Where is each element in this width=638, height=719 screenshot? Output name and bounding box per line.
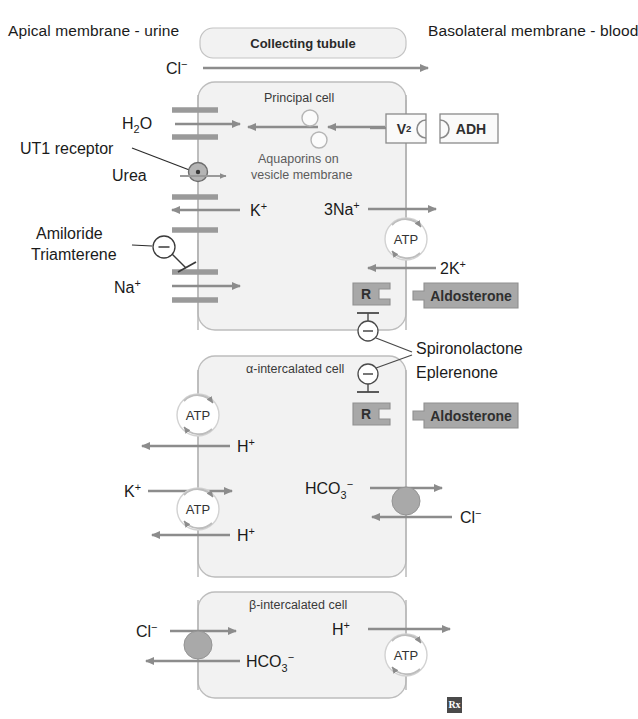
cl-alpha-label: Cl− <box>460 507 481 527</box>
hco3-alpha-label: HCO3− <box>305 478 353 501</box>
alpha-intercalated-cell-box <box>198 356 406 577</box>
amiloride-label: Amiloride <box>36 225 103 243</box>
principal-cell-label: Principal cell <box>264 91 334 105</box>
hco3-cl-exchanger-alpha <box>392 487 420 515</box>
apical-membrane-header: Apical membrane - urine <box>8 22 179 40</box>
basolateral-membrane-header: Basolateral membrane - blood <box>428 22 638 40</box>
na-apical-principal-label: Na+ <box>114 277 141 297</box>
ut1-receptor-label: UT1 receptor <box>20 140 113 158</box>
collecting-tubule-label: Collecting tubule <box>200 28 406 58</box>
eplerenone-label: Eplerenone <box>416 364 498 382</box>
cl-tubule-label: Cl− <box>166 58 187 78</box>
triamterene-label: Triamterene <box>31 246 117 264</box>
h-alpha-top-label: H+ <box>237 436 255 456</box>
v2-receptor-label: V2 <box>386 114 422 143</box>
beta-intercalated-cell-label: β-intercalated cell <box>249 598 347 612</box>
na3-basal-label: 3Na+ <box>324 199 360 219</box>
atp-pump-principal-label: ATP <box>385 228 427 250</box>
h-alpha-bottom-label: H+ <box>237 525 255 545</box>
aquaporins-note-line2: vesicle membrane <box>251 168 352 182</box>
hco3-beta-label: HCO3− <box>246 651 294 674</box>
atp-pump-alpha-top-label: ATP <box>177 404 219 426</box>
k-apical-principal-label: K+ <box>250 200 267 220</box>
spironolactone-label: Spironolactone <box>416 340 523 358</box>
amiloride-inhibit-stem <box>172 254 186 268</box>
amiloride-pointer <box>132 245 152 246</box>
aquaporin-vesicle-lower <box>311 132 327 148</box>
diagram-canvas: Apical membrane - urine Basolateral memb… <box>0 0 638 719</box>
mineralocorticoid-receptor-1-label: R <box>353 283 379 305</box>
spiro-pointer-1 <box>376 338 412 352</box>
mineralocorticoid-receptor-2-label: R <box>353 403 379 425</box>
h2o-label: H2O <box>122 115 152 135</box>
k2-basal-label: 2K+ <box>440 258 466 278</box>
aquaporins-note-line1: Aquaporins on <box>258 152 339 166</box>
cl-beta-label: Cl− <box>136 621 157 641</box>
alpha-intercalated-cell-label: α-intercalated cell <box>246 362 344 376</box>
adh-label: ADH <box>446 114 496 143</box>
aldosterone-ligand-2-label: Aldosterone <box>424 403 518 428</box>
ut1-receptor-dot <box>196 170 200 174</box>
h-beta-label: H+ <box>332 619 350 639</box>
atp-pump-alpha-bottom-label: ATP <box>177 498 219 520</box>
atp-pump-beta-label: ATP <box>385 644 427 666</box>
aquaporin-vesicle-upper <box>302 110 318 126</box>
urea-label: Urea <box>112 167 147 185</box>
cl-hco3-exchanger-beta <box>184 631 212 659</box>
rx-mark: Rx <box>447 697 462 713</box>
aldosterone-ligand-1-label: Aldosterone <box>424 283 518 308</box>
k-alpha-label: K+ <box>124 481 141 501</box>
